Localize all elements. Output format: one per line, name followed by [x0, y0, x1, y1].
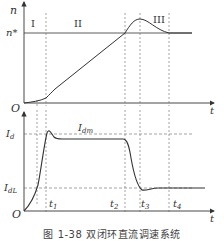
current-plot: Id IdL Idm t1 t2 t3 t4 O t	[3, 110, 215, 224]
speed-y-label: n	[10, 4, 17, 17]
IdL-label: IdL	[3, 182, 17, 195]
t2-label: t2	[110, 198, 119, 211]
speed-ref-label: n*	[6, 27, 17, 38]
Id-label: Id	[5, 128, 15, 141]
stage-label-3: III	[153, 14, 165, 25]
startup-diagram: n n* I II III O t Id IdL Idm t1 t2 t3 t	[0, 0, 224, 241]
t1-label: t1	[49, 198, 58, 211]
current-levels	[24, 134, 192, 188]
speed-x-label: t	[210, 105, 215, 116]
stage-dividers	[37, 13, 169, 106]
current-origin-label: O	[12, 208, 21, 221]
figure-caption: 图 1-38 双闭环直流调速系统	[0, 226, 224, 241]
stage-label-1: I	[31, 18, 35, 29]
speed-curve	[24, 19, 192, 103]
t3-label: t3	[141, 198, 150, 211]
speed-plot: n n* I II III O t	[6, 2, 215, 116]
t4-label: t4	[173, 198, 182, 211]
time-dividers	[37, 110, 169, 214]
Idm-label: Idm	[77, 122, 93, 135]
stage-label-2: II	[74, 18, 82, 29]
current-x-label: t	[210, 213, 215, 224]
speed-origin-label: O	[11, 102, 20, 115]
